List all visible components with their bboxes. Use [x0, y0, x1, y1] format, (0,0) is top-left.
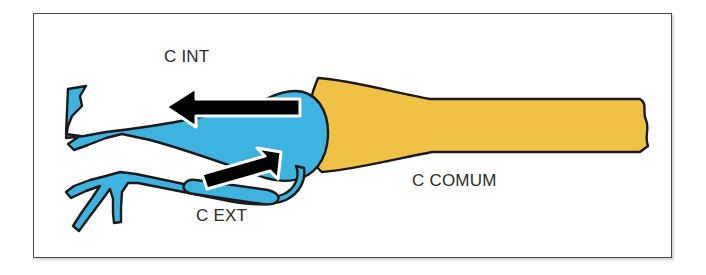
vessel-common-carotid	[307, 78, 648, 172]
figure-root: C INT C EXT C COMUM	[0, 0, 706, 275]
label-external-carotid: C EXT	[196, 207, 247, 224]
label-common-carotid: C COMUM	[412, 172, 497, 189]
common-carotid-body	[307, 78, 648, 172]
carotid-bifurcation-illustration	[0, 0, 706, 275]
label-internal-carotid: C INT	[164, 48, 209, 65]
